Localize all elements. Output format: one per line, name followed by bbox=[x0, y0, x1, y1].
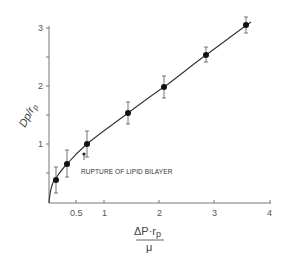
y-axis-label: Dp/rp bbox=[16, 101, 40, 130]
x-tick-label-2: 2 bbox=[157, 208, 162, 218]
data-point bbox=[161, 84, 167, 90]
data-point bbox=[125, 110, 131, 116]
x-tick-label-4: 4 bbox=[267, 208, 272, 218]
data-series bbox=[54, 17, 248, 193]
x-tick-label-3: 3 bbox=[212, 208, 217, 218]
data-point bbox=[243, 22, 249, 28]
chart-canvas: 1 2 3 0.5 1 2 3 4 RUPTURE OF LIPID B bbox=[0, 0, 284, 259]
data-point bbox=[64, 161, 70, 167]
y-tick-label-3: 3 bbox=[38, 23, 43, 33]
rupture-annotation: RUPTURE OF LIPID BILAYER bbox=[81, 168, 173, 175]
y-tick-label-2: 2 bbox=[38, 81, 43, 91]
rupture-marker bbox=[82, 152, 85, 160]
x-axis-label: ΔP·rp μ bbox=[134, 225, 164, 253]
svg-text:ΔP·rp: ΔP·rp bbox=[134, 225, 161, 239]
x-tick-label-0.5: 0.5 bbox=[70, 208, 83, 218]
svg-text:μ: μ bbox=[146, 241, 152, 253]
svg-text:Dp/rp: Dp/rp bbox=[16, 101, 40, 130]
data-point bbox=[203, 52, 209, 58]
data-point bbox=[84, 141, 90, 147]
x-tick-label-1: 1 bbox=[102, 208, 107, 218]
y-tick-label-1: 1 bbox=[38, 139, 43, 149]
fit-curve bbox=[49, 22, 251, 203]
data-point bbox=[53, 177, 59, 183]
data-points bbox=[53, 22, 249, 183]
